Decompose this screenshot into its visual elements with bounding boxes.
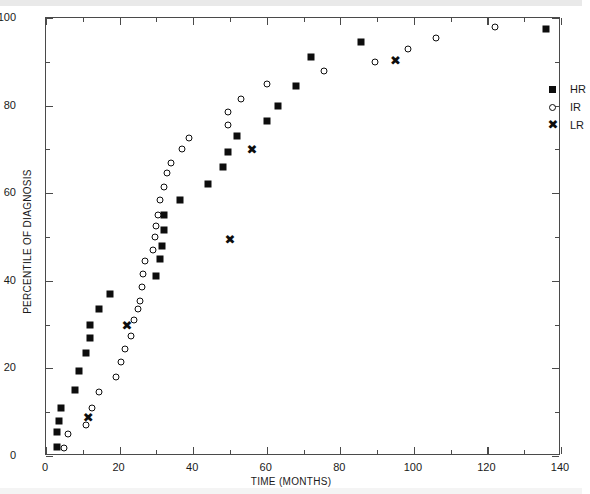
data-point-ir — [160, 183, 167, 190]
data-point-ir — [96, 389, 103, 396]
data-point-hr — [57, 404, 64, 411]
data-point-ir — [320, 67, 327, 74]
data-point-hr — [72, 387, 79, 394]
x-axis-tick-label: 20 — [97, 461, 141, 473]
x-axis-tick-label: 80 — [317, 461, 361, 473]
data-point-ir — [157, 196, 164, 203]
filled-square-icon — [546, 82, 560, 96]
data-point-hr — [83, 350, 90, 357]
data-point-ir — [142, 258, 149, 265]
data-point-hr — [54, 428, 61, 435]
y-axis-tick — [552, 456, 559, 457]
x-axis-tick — [561, 447, 562, 454]
data-point-ir — [65, 431, 72, 438]
data-point-hr — [158, 242, 165, 249]
x-axis-title: TIME (MONTHS) — [0, 476, 582, 487]
y-axis-tick-label: 60 — [0, 186, 16, 198]
data-point-hr — [87, 334, 94, 341]
data-point-ir — [225, 122, 232, 129]
data-point-ir — [372, 58, 379, 65]
data-point-hr — [157, 255, 164, 262]
legend-item-hr: HR — [546, 80, 590, 98]
data-point-ir — [225, 109, 232, 116]
data-point-ir — [136, 297, 143, 304]
x-axis-tick-label: 100 — [391, 461, 435, 473]
plot-area: ✖✖✖✖✖ HR IR ✖ LR — [45, 17, 560, 455]
data-point-hr — [219, 163, 226, 170]
data-point-hr — [87, 321, 94, 328]
legend-item-lr: ✖ LR — [546, 116, 590, 134]
data-point-hr — [357, 39, 364, 46]
x-marker-icon: ✖ — [546, 118, 560, 132]
x-axis-tick-label: 0 — [23, 461, 67, 473]
y-axis-tick-label: 0 — [0, 449, 16, 461]
y-axis-tick-label: 100 — [0, 11, 16, 23]
data-point-ir — [140, 271, 147, 278]
data-point-ir — [168, 159, 175, 166]
data-point-hr — [543, 25, 550, 32]
data-point-lr: ✖ — [223, 233, 236, 246]
data-point-hr — [307, 54, 314, 61]
legend-label-ir: IR — [570, 101, 581, 113]
data-point-lr: ✖ — [120, 318, 133, 331]
data-point-ir — [179, 146, 186, 153]
data-point-hr — [153, 273, 160, 280]
data-point-lr: ✖ — [389, 53, 402, 66]
scan-artifact-top — [0, 0, 582, 6]
data-point-ir — [164, 170, 171, 177]
open-circle-icon — [546, 100, 560, 114]
data-point-ir — [138, 284, 145, 291]
data-point-ir — [491, 23, 498, 30]
data-point-ir — [118, 358, 125, 365]
data-point-hr — [96, 306, 103, 313]
y-axis-tick-label: 80 — [0, 99, 16, 111]
x-axis-tick-label: 60 — [244, 461, 288, 473]
data-point-ir — [127, 332, 134, 339]
legend-item-ir: IR — [546, 98, 590, 116]
data-point-hr — [55, 417, 62, 424]
data-point-ir — [151, 234, 158, 241]
data-point-ir — [153, 223, 160, 230]
data-point-ir — [263, 80, 270, 87]
scan-artifact-bottom — [0, 488, 582, 494]
data-point-ir — [155, 212, 162, 219]
y-axis-tick-label: 40 — [0, 274, 16, 286]
data-point-hr — [204, 181, 211, 188]
data-point-hr — [263, 117, 270, 124]
data-point-hr — [225, 148, 232, 155]
data-point-hr — [76, 367, 83, 374]
data-points-layer: ✖✖✖✖✖ — [46, 18, 559, 454]
data-point-ir — [122, 345, 129, 352]
data-point-hr — [160, 227, 167, 234]
data-point-ir — [134, 306, 141, 313]
data-point-hr — [274, 102, 281, 109]
data-point-hr — [234, 133, 241, 140]
x-axis-tick — [561, 18, 562, 25]
x-axis-tick-label: 120 — [464, 461, 508, 473]
data-point-ir — [432, 34, 439, 41]
data-point-ir — [112, 374, 119, 381]
y-axis-tick-label: 20 — [0, 361, 16, 373]
legend: HR IR ✖ LR — [546, 80, 590, 134]
data-point-hr — [54, 444, 61, 451]
data-point-hr — [177, 196, 184, 203]
data-point-ir — [237, 96, 244, 103]
data-point-hr — [293, 82, 300, 89]
x-axis-tick-label: 40 — [170, 461, 214, 473]
data-point-lr: ✖ — [82, 410, 95, 423]
data-point-lr: ✖ — [246, 143, 259, 156]
x-axis-tick-label: 140 — [538, 461, 582, 473]
data-point-ir — [149, 247, 156, 254]
y-axis-title: PERCENTILE OF DIAGNOSIS — [22, 127, 33, 357]
y-axis-tick — [46, 456, 53, 457]
data-point-ir — [61, 445, 68, 452]
legend-label-hr: HR — [570, 83, 586, 95]
data-point-hr — [107, 290, 114, 297]
data-point-ir — [405, 45, 412, 52]
legend-label-lr: LR — [570, 119, 584, 131]
data-point-ir — [186, 135, 193, 142]
